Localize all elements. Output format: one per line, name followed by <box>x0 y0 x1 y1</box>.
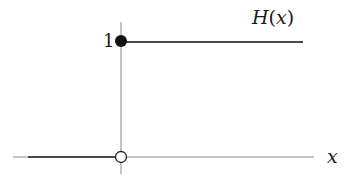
x-axis-label: x <box>327 147 338 166</box>
open-dot-marker <box>116 152 127 163</box>
function-paren-open: ( <box>269 6 276 28</box>
function-paren-close: ) <box>287 6 294 28</box>
function-label: H(x) <box>252 8 294 27</box>
closed-dot-marker <box>115 35 127 47</box>
heaviside-step-plot <box>0 0 360 185</box>
function-name: H <box>252 6 269 28</box>
y-tick-label-1: 1 <box>103 32 114 50</box>
function-arg: x <box>276 6 287 28</box>
